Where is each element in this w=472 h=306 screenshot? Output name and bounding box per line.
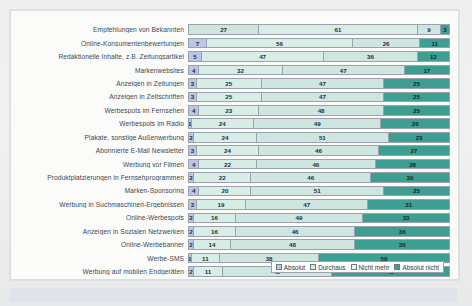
bar-segment-absolut-nicht: 25 <box>384 106 449 115</box>
bar-segment-durchaus: 25 <box>197 79 262 88</box>
bar-segment-absolut-nicht: 25 <box>384 79 449 88</box>
stacked-bar: 4205125 <box>188 186 450 197</box>
chart-row: Werbespots im Radio1244926 <box>21 117 450 130</box>
chart-row: Abonnierte E-Mail Newsletter3244627 <box>21 144 450 157</box>
bar-segment-absolut: 4 <box>189 160 199 169</box>
bar-segment-absolut-nicht: 28 <box>376 160 449 169</box>
stacked-bar: 4234825 <box>188 105 450 116</box>
bar-segment-nicht-mehr: 46 <box>251 173 371 182</box>
chart-row-label: Werbespots im Fernsehen <box>21 107 188 114</box>
chart-row: Redaktionelle Inhalte, z.B. Zeitungsarti… <box>21 50 450 63</box>
stacked-bar: 1244926 <box>188 118 450 129</box>
bar-segment-nicht-mehr: 49 <box>254 119 381 128</box>
bar-segment-absolut-nicht: 25 <box>384 187 449 196</box>
legend-label: Absolut <box>284 264 305 271</box>
bar-segment-durchaus: 25 <box>197 93 262 102</box>
bar-segment-nicht-mehr: 47 <box>262 93 384 102</box>
bar-segment-nicht-mehr: 36 <box>324 52 418 61</box>
bar-segment-absolut: 4 <box>189 66 199 75</box>
legend-swatch-icon <box>351 264 357 270</box>
bar-segment-absolut-nicht: 36 <box>355 227 449 236</box>
stacked-bar: 2144836 <box>188 239 450 250</box>
stacked-bar: 4324717 <box>188 65 450 76</box>
bar-segment-durchaus: 11 <box>194 267 223 276</box>
chart-row: Produktplatzierungen in Fernsehprogramme… <box>21 171 450 184</box>
bar-segment-nicht-mehr: 48 <box>231 240 356 249</box>
bar-segment-durchaus: 16 <box>194 214 236 223</box>
bar-segment-durchaus: 24 <box>194 133 256 142</box>
bar-segment-nicht-mehr: 47 <box>246 200 368 209</box>
chart-row-label: Anzeigen in Sozialen Netzwerken <box>21 228 188 235</box>
stacked-bar: 4224628 <box>188 159 450 170</box>
chart-row-label: Werbung auf mobilen Endgeräten <box>21 268 188 275</box>
chart-row: Markenwebsites4324717 <box>21 63 450 76</box>
bar-segment-nicht-mehr: 51 <box>251 187 384 196</box>
chart-row-label: Plakate, sonstige Außenwerbung <box>21 134 188 141</box>
bar-segment-absolut: 4 <box>189 106 199 115</box>
chart-row-label: Abonnierte E-Mail Newsletter <box>21 147 188 154</box>
bar-segment-durchaus: 47 <box>202 52 324 61</box>
bar-segment-durchaus: 22 <box>199 160 256 169</box>
bar-segment-absolut: 3 <box>189 200 197 209</box>
bar-segment-durchaus: 23 <box>199 106 259 115</box>
chart-row: Online-Werbebanner2144836 <box>21 238 450 251</box>
bar-segment-absolut-nicht: 27 <box>379 146 449 155</box>
legend-label: Durchaus <box>318 264 345 271</box>
stacked-bar: 2164636 <box>188 226 450 237</box>
bar-segment-durchaus: 16 <box>194 227 236 236</box>
bar-segment-durchaus: 14 <box>194 240 230 249</box>
bar-segment-nicht-mehr: 46 <box>259 146 379 155</box>
bar-segment-absolut-nicht: 36 <box>355 240 449 249</box>
chart-row-label: Anzeigen in Zeitungen <box>21 80 188 87</box>
legend-item: Durchaus <box>310 264 345 271</box>
bar-segment-absolut: 3 <box>189 93 197 102</box>
bar-segment-durchaus: 32 <box>199 66 282 75</box>
chart-row-label: Anzeigen in Zeitschriften <box>21 93 188 100</box>
bar-segment-absolut-nicht: 3 <box>441 25 449 34</box>
legend-item: Absolut <box>276 264 305 271</box>
bar-segment-absolut-nicht: 33 <box>363 214 449 223</box>
stacked-bar: 2245123 <box>188 132 450 143</box>
bar-segment-absolut: 3 <box>189 146 197 155</box>
bar-segment-absolut-nicht: 12 <box>418 52 449 61</box>
chart-plot-area: Empfehlungen von Bekannten276193Online-K… <box>21 23 450 271</box>
bar-segment-absolut: 3 <box>189 79 197 88</box>
chart-row: Werbung vor Filmen4224628 <box>21 157 450 170</box>
chart-row-label: Werbung in Suchmaschinen-Ergebnissen <box>21 201 188 208</box>
stacked-bar: 5473612 <box>188 51 450 62</box>
legend-item: Nicht mehr <box>351 264 390 271</box>
stacked-bar: 3254725 <box>188 78 450 89</box>
chart-row: Werbung in Suchmaschinen-Ergebnissen3194… <box>21 198 450 211</box>
legend-swatch-icon <box>276 264 282 270</box>
chart-legend: AbsolutDurchausNicht mehrAbsolut nicht <box>271 261 444 273</box>
bar-segment-nicht-mehr: 47 <box>262 79 384 88</box>
bar-segment-absolut: 5 <box>189 52 202 61</box>
page-root: Empfehlungen von Bekannten276193Online-K… <box>0 0 472 306</box>
stacked-bar: 2164933 <box>188 213 450 224</box>
legend-swatch-icon <box>310 264 316 270</box>
chart-row-label: Redaktionelle Inhalte, z.B. Zeitungsarti… <box>21 53 188 60</box>
chart-card: Empfehlungen von Bekannten276193Online-K… <box>10 10 459 280</box>
bar-segment-durchaus: 24 <box>197 146 259 155</box>
chart-row: Empfehlungen von Bekannten276193 <box>21 23 450 36</box>
chart-row-label: Empfehlungen von Bekannten <box>21 26 188 33</box>
bar-segment-nicht-mehr: 47 <box>283 66 405 75</box>
chart-row-label: Marken-Sponsoring <box>21 187 188 194</box>
legend-swatch-icon <box>394 264 400 270</box>
chart-row: Anzeigen in Zeitschriften3254725 <box>21 90 450 103</box>
bar-segment-absolut: 27 <box>189 25 259 34</box>
bar-segment-nicht-mehr: 48 <box>259 106 384 115</box>
chart-row-label: Online-Konsumentenbewertungen <box>21 40 188 47</box>
chart-row-label: Werbespots im Radio <box>21 120 188 127</box>
bar-segment-nicht-mehr: 46 <box>236 227 356 236</box>
bar-segment-durchaus: 61 <box>259 25 418 34</box>
chart-row-label: Werbe-SMS <box>21 255 188 262</box>
bar-segment-nicht-mehr: 9 <box>418 25 441 34</box>
bar-segment-absolut-nicht: 23 <box>389 133 449 142</box>
bar-segment-absolut-nicht: 25 <box>384 93 449 102</box>
bar-segment-absolut-nicht: 26 <box>381 119 449 128</box>
stacked-bar: 2224630 <box>188 172 450 183</box>
bar-segment-absolut: 7 <box>189 39 207 48</box>
chart-row: Anzeigen in Zeitungen3254725 <box>21 77 450 90</box>
bar-segment-durchaus: 24 <box>192 119 254 128</box>
